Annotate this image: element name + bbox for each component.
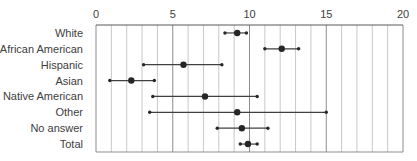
lower-bound-marker <box>216 126 219 129</box>
x-tick-label: 10 <box>243 8 255 20</box>
mean-marker <box>202 93 208 99</box>
category-labels: WhiteAfrican AmericanHispanicAsianNative… <box>0 27 83 150</box>
upper-bound-marker <box>255 95 258 98</box>
x-tick-labels: 05101520 <box>93 8 409 20</box>
error-bar-hispanic <box>142 61 224 67</box>
error-bar-total <box>239 141 259 147</box>
category-label: Asian <box>55 75 83 87</box>
category-label: White <box>55 27 83 39</box>
x-tick-label: 5 <box>170 8 176 20</box>
lower-bound-marker <box>108 79 111 82</box>
category-label: Total <box>60 138 83 150</box>
x-tick-label: 0 <box>93 8 99 20</box>
mean-marker <box>245 141 251 147</box>
gridlines <box>96 25 403 152</box>
upper-bound-marker <box>220 63 223 66</box>
upper-bound-marker <box>255 142 258 145</box>
error-bar-white <box>223 30 248 36</box>
category-label: Hispanic <box>41 59 84 71</box>
lower-bound-marker <box>151 95 154 98</box>
upper-bound-marker <box>266 126 269 129</box>
mean-marker <box>234 109 240 115</box>
error-bar-african-american <box>263 46 300 52</box>
chart: 05101520 WhiteAfrican AmericanHispanicAs… <box>0 0 417 161</box>
category-label: Native American <box>3 90 83 102</box>
error-bar-no-answer <box>216 125 270 131</box>
mean-marker <box>279 46 285 52</box>
x-tick-label: 15 <box>320 8 332 20</box>
category-label: No answer <box>30 122 83 134</box>
category-label: Other <box>55 106 83 118</box>
lower-bound-marker <box>239 142 242 145</box>
upper-bound-marker <box>245 31 248 34</box>
upper-bound-marker <box>297 47 300 50</box>
error-bar-native-american <box>151 93 259 99</box>
mean-marker <box>180 61 186 67</box>
upper-bound-marker <box>325 111 328 114</box>
error-bar-asian <box>108 77 156 83</box>
mean-marker <box>239 125 245 131</box>
mean-marker <box>128 77 134 83</box>
lower-bound-marker <box>263 47 266 50</box>
lower-bound-marker <box>148 111 151 114</box>
x-tick-label: 20 <box>397 8 409 20</box>
category-label: African American <box>0 43 83 55</box>
error-bar-other <box>148 109 328 115</box>
upper-bound-marker <box>153 79 156 82</box>
mean-marker <box>234 30 240 36</box>
lower-bound-marker <box>142 63 145 66</box>
lower-bound-marker <box>223 31 226 34</box>
data-points <box>108 30 328 148</box>
